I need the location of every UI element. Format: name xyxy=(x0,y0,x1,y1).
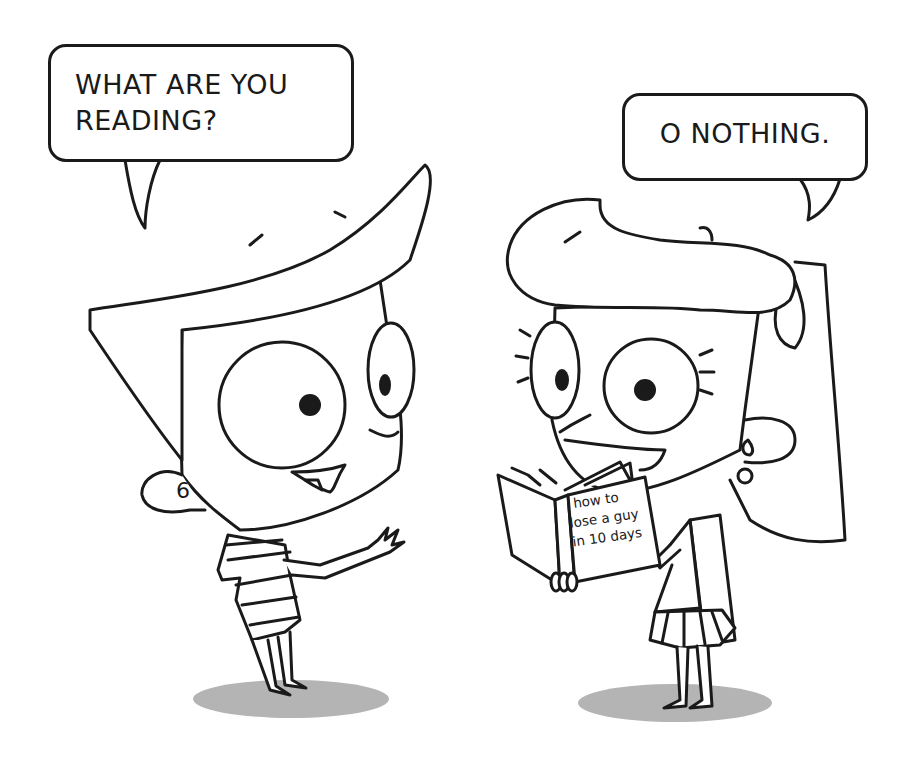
ear-mark: 6 xyxy=(176,478,190,503)
girl xyxy=(498,199,845,708)
girl-bubble-tail xyxy=(800,179,840,220)
boy-bubble-tail xyxy=(125,160,160,228)
boy: 6 xyxy=(90,165,430,695)
book-cover-left xyxy=(498,475,560,585)
speech-line: READING? xyxy=(75,103,327,139)
boy-speech-bubble: WHAT ARE YOU READING? xyxy=(48,44,354,162)
speech-line: WHAT ARE YOU xyxy=(75,67,327,103)
girl-speech-bubble: O NOTHING. xyxy=(622,93,868,181)
speech-line: O NOTHING. xyxy=(645,116,845,152)
